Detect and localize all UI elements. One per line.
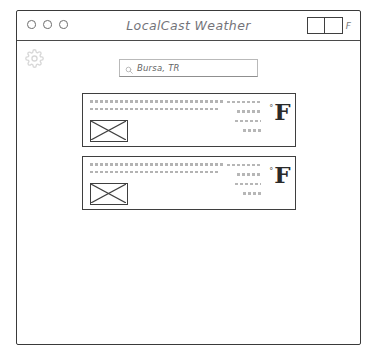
detail-line: [235, 183, 261, 185]
forecast-card-text: [90, 163, 228, 178]
toggle-switch-icon[interactable]: [307, 17, 343, 34]
search-input-value: Bursa, TR: [137, 63, 180, 73]
forecast-card-details: [225, 164, 261, 202]
placeholder-text-line: [90, 100, 224, 103]
detail-line: [235, 120, 261, 122]
forecast-card[interactable]: ° F: [82, 93, 296, 147]
temperature-unit: F: [274, 102, 289, 122]
temperature-unit-display: ° F: [269, 102, 289, 122]
unit-toggle-label: F: [346, 21, 351, 31]
app-window: LocalCast Weather F: [16, 10, 361, 345]
degree-symbol: °: [269, 105, 273, 113]
detail-line: [237, 173, 261, 175]
search-input[interactable]: Bursa, TR: [119, 59, 258, 77]
toggle-half-left: [308, 18, 326, 33]
detail-line: [243, 129, 261, 131]
search-row: Bursa, TR: [17, 59, 360, 77]
temperature-unit: F: [274, 165, 289, 185]
window-titlebar: LocalCast Weather F: [17, 11, 360, 41]
toggle-half-right: [325, 18, 342, 33]
forecast-card-text: [90, 100, 228, 115]
unit-toggle-group[interactable]: F: [307, 17, 351, 34]
degree-symbol: °: [269, 168, 273, 176]
forecast-card-details: [225, 101, 261, 139]
weather-image-placeholder: [90, 183, 128, 205]
forecast-card[interactable]: ° F: [82, 156, 296, 210]
detail-line: [237, 110, 261, 112]
forecast-list: ° F: [17, 93, 360, 219]
placeholder-text-line: [90, 108, 220, 111]
temperature-unit-display: ° F: [269, 165, 289, 185]
weather-image-placeholder: [90, 120, 128, 142]
placeholder-text-line: [90, 171, 220, 174]
detail-line: [227, 101, 261, 103]
detail-line: [243, 192, 261, 194]
placeholder-text-line: [90, 163, 224, 166]
window-content: Bursa, TR: [17, 41, 360, 344]
detail-line: [227, 164, 261, 166]
search-icon: [125, 59, 133, 78]
